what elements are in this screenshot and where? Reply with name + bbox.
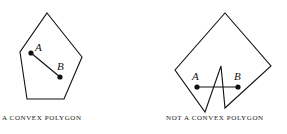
caption-convex: A CONVEX POLYGON [2,114,82,122]
convex-polygon-figure: A B [20,13,82,99]
label-a: A [34,41,42,53]
label-b: B [234,70,241,82]
point-b [57,74,62,79]
point-b [235,84,240,89]
non-convex-polygon-figure: A B [175,13,271,112]
segment-ab [31,53,60,77]
convex-pentagon [20,13,82,99]
label-b: B [57,60,64,72]
label-a: A [191,70,199,82]
point-a [28,50,33,55]
non-convex-polygon [175,13,271,112]
caption-not-convex: NOT A CONVEX POLYGON [166,114,264,122]
point-a [194,84,199,89]
